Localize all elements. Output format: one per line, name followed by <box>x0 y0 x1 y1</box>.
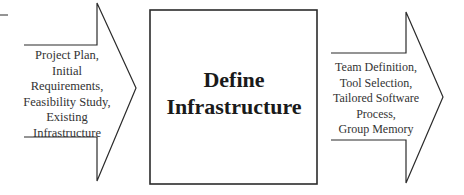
output-line: Group Memory <box>326 122 426 138</box>
output-arrow-label: Team Definition, Tool Selection, Tailore… <box>326 60 426 138</box>
output-line: Tool Selection, <box>326 76 426 92</box>
input-line: Requirements, <box>22 79 112 95</box>
input-line: Project Plan, <box>22 48 112 64</box>
output-line: Team Definition, <box>326 60 426 76</box>
input-arrow-label: Project Plan, Initial Requirements, Feas… <box>22 48 112 141</box>
process-box-label: Define Infrastructure <box>151 66 317 120</box>
process-line: Define <box>151 66 317 93</box>
input-line: Existing <box>22 110 112 126</box>
output-line: Tailored Software <box>326 91 426 107</box>
output-line: Process, <box>326 107 426 123</box>
process-line: Infrastructure <box>151 93 317 120</box>
input-line: Initial <box>22 64 112 80</box>
input-line: Infrastructure <box>22 126 112 142</box>
input-line: Feasibility Study, <box>22 95 112 111</box>
